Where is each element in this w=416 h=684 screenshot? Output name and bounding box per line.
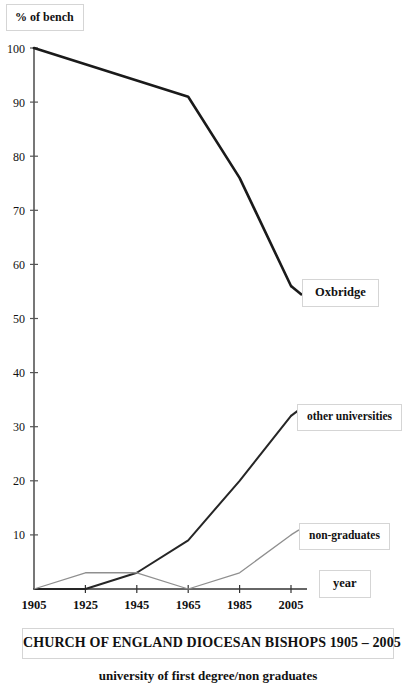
y-tick-label: 50 (13, 312, 25, 326)
series-line-non-graduates (34, 535, 291, 589)
x-axis-label: year (319, 570, 371, 598)
x-tick-label: 1925 (73, 598, 98, 612)
x-tick-label: 1985 (227, 598, 252, 612)
y-tick-label: 90 (13, 96, 25, 110)
x-tick-label: 2005 (279, 598, 304, 612)
y-tick-label: 60 (13, 258, 25, 272)
x-tick-label: 1905 (22, 598, 47, 612)
y-tick-label: 30 (13, 420, 25, 434)
y-tick-label: 40 (13, 366, 25, 380)
legend-leader-line (291, 286, 302, 295)
y-tick-label: 10 (13, 528, 25, 542)
y-tick-label: 100 (7, 42, 25, 56)
y-tick-label: 70 (13, 204, 25, 218)
legend-label-non-graduates: non-graduates (299, 523, 390, 550)
legend-leader-line (291, 530, 299, 535)
chart-subtitle: university of first degree/non graduates (0, 668, 416, 684)
x-tick-label: 1945 (124, 598, 149, 612)
legend-label-other-universities: other universities (297, 404, 402, 431)
series-line-oxbridge (34, 48, 291, 286)
chart-axes (34, 48, 307, 589)
x-tick-label: 1965 (176, 598, 201, 612)
chart-title: CHURCH OF ENGLAND DIOCESAN BISHOPS 1905 … (22, 628, 394, 659)
legend-label-oxbridge: Oxbridge (302, 279, 379, 307)
y-tick-label: 20 (13, 474, 25, 488)
y-tick-label: 80 (13, 150, 25, 164)
